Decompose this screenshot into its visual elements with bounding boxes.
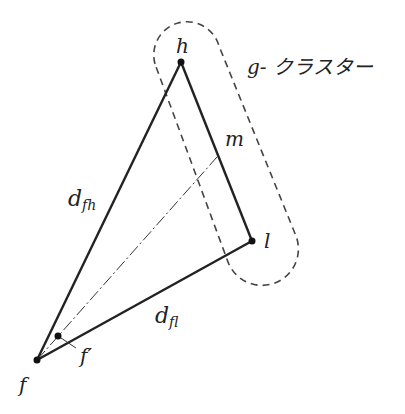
- label-f: f: [17, 373, 30, 397]
- point-h: [178, 59, 185, 66]
- point-f-prime: [55, 333, 62, 340]
- cluster-diagram: h l f f′ m dfh dfl g- クラスター: [0, 0, 405, 414]
- edge-f-l: [37, 241, 252, 360]
- label-d-fh: dfh: [68, 186, 96, 213]
- label-f-prime: f′: [78, 344, 92, 368]
- label-d-fl: dfl: [155, 303, 179, 330]
- cluster-label: g- クラスター: [247, 55, 374, 79]
- point-f: [34, 357, 41, 364]
- label-h: h: [176, 34, 189, 58]
- point-l: [249, 238, 256, 245]
- median-line-f-m: [37, 157, 217, 360]
- label-l: l: [264, 229, 270, 253]
- label-m: m: [225, 127, 244, 151]
- edge-h-l: [181, 62, 252, 241]
